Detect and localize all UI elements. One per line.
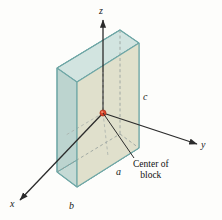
dimension-label-a: a [116,167,121,177]
axis-label-z: z [99,6,103,16]
dimension-label-c: c [143,92,147,102]
block-diagram-canvas [0,0,222,220]
block-diagram: z y x a b c Center of block [0,0,222,220]
center-of-block-annotation-line1: Center of [133,159,169,170]
center-of-block-highlight [101,111,103,113]
axis-label-x: x [10,199,14,209]
center-of-block-annotation: Center of block [133,159,169,181]
dimension-label-b: b [69,201,74,211]
center-of-block-annotation-line2: block [133,170,169,181]
axis-label-y: y [201,140,205,150]
